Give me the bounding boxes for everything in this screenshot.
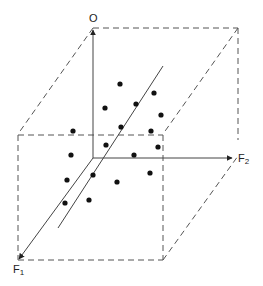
- data-point: [62, 200, 67, 205]
- principal-line: [58, 66, 163, 228]
- scatter-3d-diagram: O F2 F1: [0, 0, 263, 286]
- data-point: [117, 81, 122, 86]
- data-point: [102, 105, 107, 110]
- data-point: [118, 124, 123, 129]
- depth-axis-F1: [19, 158, 93, 259]
- axis-label-F1: F1: [13, 264, 24, 277]
- diagram-canvas: [0, 0, 263, 286]
- axis-label-F2: F2: [238, 153, 249, 166]
- data-point: [70, 128, 75, 133]
- data-point: [133, 101, 138, 106]
- data-point: [90, 172, 95, 177]
- data-point: [131, 152, 136, 157]
- data-point: [114, 179, 119, 184]
- bounding-box: [18, 28, 238, 260]
- data-point: [86, 197, 91, 202]
- data-point: [147, 170, 152, 175]
- axis-label-O: O: [89, 13, 98, 24]
- data-point: [68, 152, 73, 157]
- axes: [19, 30, 232, 259]
- data-point: [148, 128, 153, 133]
- data-point: [158, 112, 163, 117]
- data-point: [155, 144, 160, 149]
- data-point: [103, 142, 108, 147]
- data-point: [151, 90, 156, 95]
- data-point: [64, 177, 69, 182]
